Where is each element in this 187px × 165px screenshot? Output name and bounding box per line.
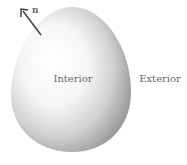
- interior-label: Interior: [53, 73, 92, 84]
- closed-surface-diagram: n Interior Exterior: [0, 0, 187, 165]
- exterior-label: Exterior: [139, 73, 181, 84]
- normal-label: n: [32, 5, 39, 15]
